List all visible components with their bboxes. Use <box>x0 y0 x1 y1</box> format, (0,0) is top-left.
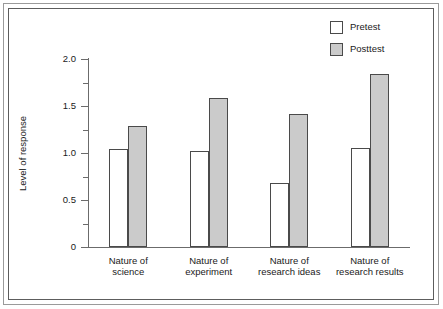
y-tick-major <box>81 59 89 60</box>
bar-pretest-4 <box>351 148 370 247</box>
y-tick-label-wrap: 0.5 <box>44 195 76 205</box>
y-tick-label-wrap: 2.0 <box>44 54 76 64</box>
y-tick-major <box>81 106 89 107</box>
x-axis-line <box>88 247 410 248</box>
y-tick-label-wrap: 0 <box>44 242 76 252</box>
chart-legend: Pretest Posttest <box>330 18 384 62</box>
y-tick-minor <box>83 83 89 84</box>
legend-item-posttest: Posttest <box>330 40 384 58</box>
y-tick-label: 1.5 <box>46 101 76 111</box>
bar-posttest-2 <box>209 98 228 247</box>
y-tick-label-wrap: 1.0 <box>44 148 76 158</box>
category-label-line: Nature of <box>310 255 430 266</box>
y-tick-label: 1.0 <box>46 148 76 158</box>
figure: Level of response 00.51.01.52.0 Nature o… <box>0 0 443 309</box>
bar-pretest-2 <box>190 151 209 247</box>
category-label-line: research results <box>310 266 430 277</box>
y-tick-major <box>81 200 89 201</box>
bar-posttest-1 <box>128 126 147 247</box>
bar-posttest-3 <box>289 114 308 247</box>
legend-item-pretest: Pretest <box>330 18 384 36</box>
legend-label-pretest: Pretest <box>350 22 380 32</box>
legend-swatch-posttest-icon <box>330 43 343 56</box>
y-tick-minor <box>83 130 89 131</box>
bar-pretest-3 <box>270 183 289 247</box>
bar-pretest-1 <box>109 149 128 247</box>
y-tick-major <box>81 153 89 154</box>
y-tick-major <box>81 247 89 248</box>
y-tick-label: 0 <box>46 242 76 252</box>
y-tick-minor <box>83 177 89 178</box>
y-tick-minor <box>83 224 89 225</box>
bar-chart-plot: Level of response 00.51.01.52.0 Nature o… <box>0 0 443 309</box>
bar-posttest-4 <box>370 74 389 247</box>
legend-swatch-pretest-icon <box>330 21 343 34</box>
legend-label-posttest: Posttest <box>350 44 384 54</box>
y-tick-label-wrap: 1.5 <box>44 101 76 111</box>
y-axis-title: Level of response <box>17 84 28 224</box>
y-tick-label: 0.5 <box>46 195 76 205</box>
y-tick-label: 2.0 <box>46 54 76 64</box>
x-axis-category-label: Nature ofresearch results <box>310 255 430 277</box>
